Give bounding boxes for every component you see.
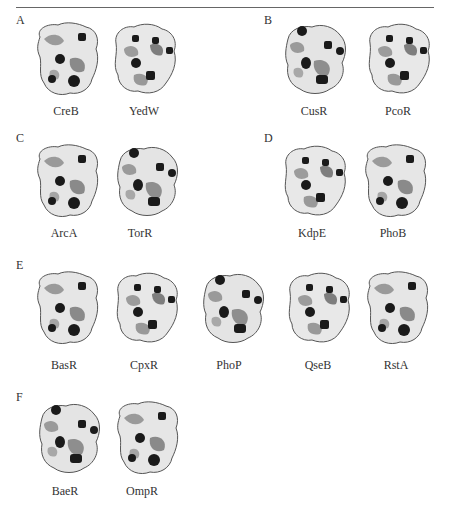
panel-letter: E — [16, 258, 23, 273]
panel-letter: C — [16, 131, 24, 146]
protein-surface-image — [110, 141, 184, 221]
protein-label: CreB — [26, 104, 106, 119]
protein-surface-image — [32, 398, 106, 478]
protein-surface-image — [278, 141, 352, 221]
protein-surface-image — [30, 141, 104, 221]
protein-label: CusR — [274, 104, 354, 119]
panel-letter: B — [264, 13, 272, 28]
panel-letter: A — [16, 13, 25, 28]
protein-surface-image — [360, 268, 434, 348]
protein-label: YedW — [104, 104, 184, 119]
protein-surface-image — [30, 268, 104, 348]
panel-letter: D — [264, 131, 273, 146]
protein-label: QseB — [278, 358, 358, 373]
protein-label: CpxR — [104, 358, 184, 373]
header-rule — [16, 7, 434, 8]
protein-label: PcoR — [358, 104, 438, 119]
protein-label: BasR — [24, 358, 104, 373]
protein-label: BaeR — [25, 484, 105, 499]
protein-label: TorR — [100, 226, 180, 241]
protein-surface-image — [196, 268, 270, 348]
protein-surface-image — [30, 19, 104, 99]
protein-surface-image — [282, 268, 356, 348]
protein-surface-image — [278, 19, 352, 99]
figure-caption — [16, 500, 434, 506]
running-header-text — [16, 0, 434, 2]
panel-letter: F — [16, 390, 23, 405]
protein-surface-image — [358, 141, 432, 221]
protein-label: OmpR — [102, 484, 182, 499]
protein-surface-image — [110, 398, 184, 478]
protein-surface-image — [110, 268, 184, 348]
protein-label: KdpE — [272, 226, 352, 241]
protein-label: PhoB — [353, 226, 433, 241]
protein-surface-image — [362, 19, 436, 99]
protein-surface-image — [108, 19, 182, 99]
protein-label: ArcA — [24, 226, 104, 241]
protein-label: PhoP — [189, 358, 269, 373]
protein-label: RstA — [356, 358, 436, 373]
